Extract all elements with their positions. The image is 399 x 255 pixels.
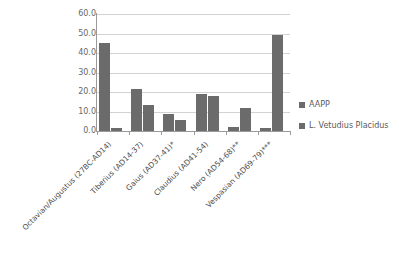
x-axis-label: Vespasian (AD69-79)***: [204, 140, 274, 210]
y-axis-tick-label: 30.0: [60, 69, 96, 77]
y-axis: 60.050.040.030.020.010.00.0: [53, 0, 96, 255]
bar-group: [97, 14, 129, 131]
y-axis-tick-label: 40.0: [60, 49, 96, 57]
bar: [163, 114, 174, 131]
bar-group: [226, 14, 258, 131]
legend-item[interactable]: AAPP: [299, 100, 397, 109]
bar-group: [258, 14, 290, 131]
legend-swatch-icon: [299, 102, 305, 108]
bar: [111, 128, 122, 131]
y-axis-tick-label: 10.0: [60, 108, 96, 116]
y-axis-tick-label: 50.0: [60, 30, 96, 38]
bar: [143, 105, 154, 131]
bar: [99, 43, 110, 131]
bar: [228, 127, 239, 131]
bar: [131, 89, 142, 131]
y-axis-tick-label: 60.0: [60, 10, 96, 18]
x-axis-tick-mark: [129, 131, 130, 135]
bar-chart: 60.050.040.030.020.010.00.0 Octavian/Aug…: [0, 0, 399, 255]
x-axis-tick-mark: [161, 131, 162, 135]
bar-group: [194, 14, 226, 131]
legend-label: L. Vetudius Placidus: [309, 121, 389, 130]
y-axis-tick-label: 0.0: [60, 127, 96, 135]
x-axis-tick-mark: [290, 131, 291, 135]
bar: [196, 94, 207, 131]
bar: [208, 96, 219, 131]
y-axis-tick-label: 20.0: [60, 88, 96, 96]
bar-group: [129, 14, 161, 131]
bar: [240, 108, 251, 131]
bar: [260, 128, 271, 131]
legend-swatch-icon: [299, 123, 305, 129]
x-axis-tick-mark: [258, 131, 259, 135]
bar: [175, 120, 186, 131]
x-axis-tick-mark: [226, 131, 227, 135]
chart-legend: AAPPL. Vetudius Placidus: [299, 100, 397, 142]
x-axis-tick-mark: [97, 131, 98, 135]
bar: [272, 35, 283, 131]
legend-label: AAPP: [309, 100, 330, 109]
bar-group: [161, 14, 193, 131]
x-axis-tick-mark: [194, 131, 195, 135]
legend-item[interactable]: L. Vetudius Placidus: [299, 121, 397, 130]
